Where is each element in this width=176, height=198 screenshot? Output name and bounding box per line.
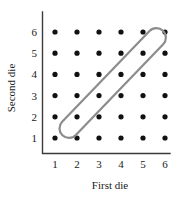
data-point	[74, 29, 79, 34]
data-point	[140, 29, 145, 34]
data-point	[118, 135, 123, 140]
x-tick-label-1: 1	[52, 158, 58, 170]
data-point	[96, 93, 101, 98]
data-point	[52, 114, 57, 119]
data-point	[162, 93, 167, 98]
y-tick-label-2: 2	[32, 111, 38, 123]
dice-outcome-scatter-figure: 6 5 4 3 2 1 1 2 3 4 5 6 First die Second…	[0, 0, 176, 198]
data-point	[162, 72, 167, 77]
data-point	[96, 114, 101, 119]
data-point	[162, 135, 167, 140]
data-point	[118, 29, 123, 34]
x-tick-label-3: 3	[96, 158, 102, 170]
data-point	[118, 72, 123, 77]
data-point	[140, 51, 145, 56]
data-point	[96, 29, 101, 34]
data-point	[74, 114, 79, 119]
data-point	[162, 51, 167, 56]
data-point	[162, 114, 167, 119]
data-point	[52, 72, 57, 77]
y-tick-label-3: 3	[32, 90, 38, 102]
y-tick-label-4: 4	[32, 68, 38, 80]
plot-canvas: 6 5 4 3 2 1 1 2 3 4 5 6 First die Second…	[0, 0, 176, 198]
data-point	[52, 51, 57, 56]
data-point	[52, 135, 57, 140]
data-point	[74, 72, 79, 77]
data-point	[96, 51, 101, 56]
data-point	[52, 29, 57, 34]
data-point	[140, 114, 145, 119]
data-point	[96, 135, 101, 140]
data-point	[140, 135, 145, 140]
data-point	[140, 93, 145, 98]
data-point	[118, 93, 123, 98]
x-tick-label-2: 2	[74, 158, 80, 170]
data-point	[74, 93, 79, 98]
data-point	[74, 51, 79, 56]
y-axis-title: Second die	[5, 64, 17, 113]
data-point	[52, 93, 57, 98]
data-point	[118, 114, 123, 119]
x-tick-label-5: 5	[140, 158, 146, 170]
x-axis-title: First die	[92, 179, 128, 191]
x-tick-label-6: 6	[162, 158, 168, 170]
data-point	[96, 72, 101, 77]
x-tick-label-4: 4	[118, 158, 124, 170]
y-tick-label-6: 6	[32, 26, 38, 38]
y-tick-label-1: 1	[32, 132, 38, 144]
data-point	[118, 51, 123, 56]
data-point	[140, 72, 145, 77]
y-tick-label-5: 5	[32, 47, 38, 59]
